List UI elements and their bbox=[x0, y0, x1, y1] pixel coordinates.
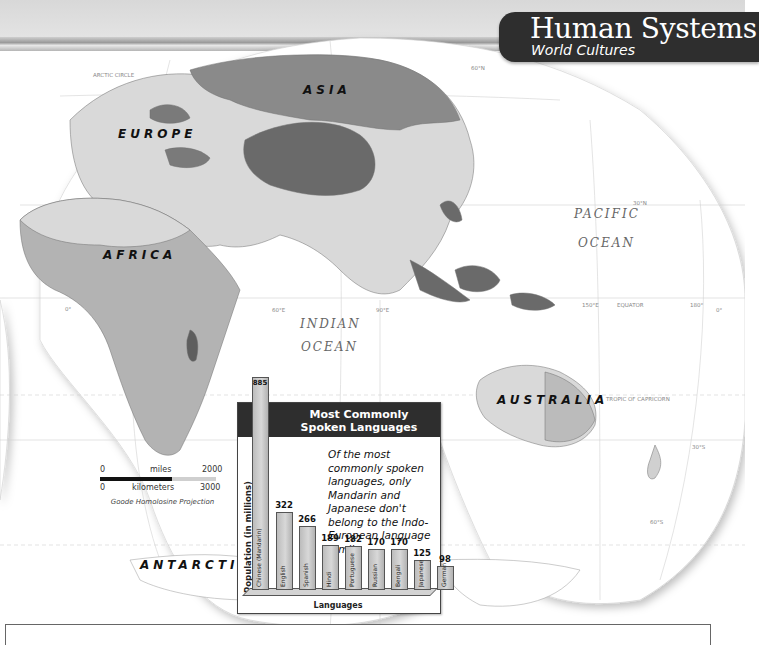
bar-label: Portuguese bbox=[348, 553, 355, 587]
bar-value: 322 bbox=[271, 500, 297, 510]
label-equator: EQUATOR bbox=[617, 302, 644, 308]
page-title: Human Systems bbox=[530, 12, 757, 45]
label-australia: AUSTRALIA bbox=[497, 393, 608, 407]
scale-km-start: 0 bbox=[100, 483, 105, 492]
label-lon-150e: 150°E bbox=[582, 302, 599, 308]
label-indian-1: INDIAN bbox=[300, 317, 361, 331]
label-lon-0: 0° bbox=[65, 306, 71, 312]
label-lat-30s: 30°S bbox=[692, 444, 705, 450]
bar-label: Chinese (Mandarin) bbox=[255, 528, 262, 587]
bar-label: Hindi bbox=[325, 572, 332, 587]
chart-x-axis-label: Languages bbox=[237, 601, 439, 610]
chart-title-line1: Most Commonly bbox=[278, 408, 440, 421]
bar-label: English bbox=[279, 565, 286, 587]
chart-title-line2: Spoken Languages bbox=[278, 421, 440, 434]
label-lat-30n: 30°N bbox=[633, 200, 647, 206]
label-pacific-1: PACIFIC bbox=[574, 207, 640, 221]
bar-portuguese: 182 Portuguese bbox=[345, 546, 367, 590]
label-arctic-circle: ARCTIC CIRCLE bbox=[93, 72, 134, 78]
bottom-caption-frame bbox=[5, 624, 711, 645]
label-tropic-capricorn: TROPIC OF CAPRICORN bbox=[606, 396, 670, 402]
label-lon-60e: 60°E bbox=[272, 307, 285, 313]
bar-chinese: 885 Chinese (Mandarin) bbox=[252, 377, 274, 590]
page-subtitle: World Cultures bbox=[531, 42, 635, 58]
label-asia: ASIA bbox=[303, 83, 351, 97]
label-africa: AFRICA bbox=[103, 248, 176, 262]
label-lat-0: 0° bbox=[716, 307, 722, 313]
bar-value: 266 bbox=[294, 514, 320, 524]
scale-miles-end: 2000 bbox=[202, 465, 222, 474]
projection-label: Goode Homolosine Projection bbox=[100, 498, 225, 506]
label-lon-180: 180° bbox=[690, 302, 703, 308]
map-scale: 0 miles 2000 0 kilometers 3000 Goode Hom… bbox=[100, 465, 220, 506]
scale-km-end: 3000 bbox=[200, 483, 220, 492]
scale-bar bbox=[100, 477, 220, 482]
label-indian-2: OCEAN bbox=[301, 340, 358, 354]
bar-russian: 170 Russian bbox=[368, 549, 390, 590]
bar-japanese: 125 Japanese bbox=[414, 560, 436, 590]
label-pacific-2: OCEAN bbox=[578, 236, 635, 250]
scale-km-label: kilometers bbox=[132, 483, 174, 492]
bar-label: Russian bbox=[371, 564, 378, 587]
label-lat-60s: 60°S bbox=[650, 519, 663, 525]
chart-title: Most Commonly Spoken Languages bbox=[278, 408, 440, 434]
bar-label: Bengali bbox=[394, 565, 401, 587]
bar-value: 885 bbox=[247, 379, 273, 387]
bar-value: 170 bbox=[386, 537, 412, 547]
label-europe: EUROPE bbox=[118, 127, 196, 141]
bar-label: German bbox=[440, 563, 447, 587]
bar-label: Japanese bbox=[417, 560, 424, 587]
label-lat-60n: 60°N bbox=[471, 65, 485, 71]
bar-german: 98 German bbox=[437, 566, 459, 590]
scale-miles-label: miles bbox=[150, 465, 171, 474]
bar-hindi: 189 Hindi bbox=[322, 545, 344, 590]
bar-label: Spanish bbox=[302, 563, 309, 587]
scale-miles-start: 0 bbox=[100, 465, 105, 474]
label-lon-90e: 90°E bbox=[376, 307, 389, 313]
